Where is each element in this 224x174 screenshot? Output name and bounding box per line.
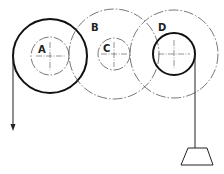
gear-d: D bbox=[130, 10, 218, 98]
label-b: B bbox=[91, 22, 99, 33]
pulley-gear-diagram: A B C D bbox=[0, 0, 224, 174]
load-weight bbox=[181, 148, 213, 165]
label-d: D bbox=[158, 22, 166, 33]
wheel-a: A bbox=[13, 19, 87, 93]
gear-c: C bbox=[98, 38, 130, 70]
arrow-down-icon bbox=[11, 124, 16, 131]
label-a: A bbox=[38, 44, 46, 55]
label-c: C bbox=[103, 43, 110, 54]
